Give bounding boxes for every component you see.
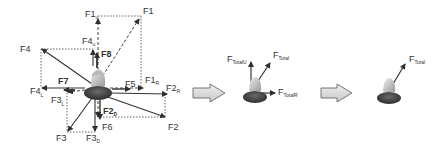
label-f6: F6	[102, 122, 113, 132]
svg-text:F3L: F3L	[51, 95, 65, 107]
svg-text:F4L: F4L	[30, 86, 44, 98]
svg-text:FTotal: FTotal	[273, 50, 289, 61]
svg-text:F4u: F4u	[82, 36, 96, 47]
panel-total-force: FTotal	[377, 54, 425, 104]
label-f1: F1	[143, 6, 154, 16]
svg-text:FTotalR: FTotalR	[278, 87, 298, 98]
label-f7: F7	[58, 76, 69, 86]
svg-text:FTotalU: FTotalU	[227, 54, 247, 65]
svg-text:F1u: F1u	[85, 9, 99, 20]
svg-text:F1R: F1R	[145, 75, 160, 86]
label-f2: F2	[168, 122, 179, 132]
svg-text:F2D: F2D	[103, 106, 118, 117]
transition-arrow-icon	[193, 84, 225, 102]
component-vectors	[68, 19, 143, 117]
label-f8: F8	[101, 49, 112, 59]
svg-text:FTotal: FTotal	[409, 54, 425, 65]
panel-resultant-components: FTotalU FTotal FTotalR	[227, 50, 298, 103]
label-f5: F5	[125, 79, 136, 89]
person-icon	[243, 77, 267, 103]
force-diagram: F1u F1 F4 F4u F8 F7 F5 F1R F2R F4L F3L F…	[0, 0, 441, 154]
svg-text:F2R: F2R	[166, 83, 181, 94]
transition-arrow-icon	[321, 84, 352, 102]
label-f3: F3	[56, 133, 67, 143]
svg-text:F3D: F3D	[86, 133, 101, 144]
panel-force-components: F1u F1 F4 F4u F8 F7 F5 F1R F2R F4L F3L F…	[20, 6, 181, 144]
person-icon	[84, 69, 112, 100]
label-f4: F4	[20, 44, 31, 54]
person-icon	[377, 78, 401, 104]
